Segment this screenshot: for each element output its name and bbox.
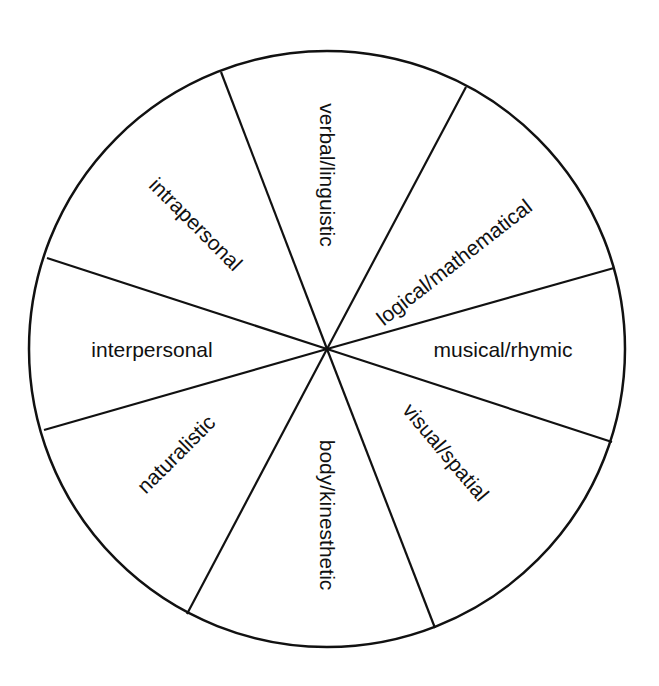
multiple-intelligences-wheel: verbal/linguistic logical/mathematical m…	[0, 0, 659, 686]
segment-label-interpersonal: interpersonal	[91, 338, 212, 361]
segment-label-musical: musical/rhymic	[434, 338, 573, 361]
segment-label-verbal: verbal/linguistic	[316, 103, 339, 247]
segment-label-body: body/kinesthetic	[316, 440, 339, 591]
